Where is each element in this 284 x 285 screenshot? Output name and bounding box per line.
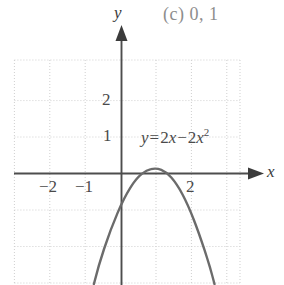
equation-equals: =	[149, 128, 161, 147]
equation-term2-exponent: 2	[204, 126, 210, 138]
equation-operator: −	[176, 128, 188, 147]
parabola-curve	[94, 169, 215, 284]
grid-lines	[14, 60, 240, 284]
x-axis-label: x	[267, 163, 275, 180]
x-axis-arrowhead	[248, 168, 264, 180]
x-tick-label-2: 2	[186, 178, 195, 195]
x-tick-label-minus-1: −1	[75, 178, 93, 195]
y-axis-label: y	[114, 4, 122, 21]
y-tick-label-2: 2	[102, 91, 111, 108]
part-label: (c) 0, 1	[163, 5, 218, 23]
y-tick-label-1: 1	[103, 127, 112, 144]
curve-equation-label: y=2x−2x2	[141, 127, 209, 146]
equation-lhs: y	[141, 128, 149, 147]
y-axis-arrowhead	[116, 25, 128, 41]
x-tick-label-minus-2: −2	[39, 178, 57, 195]
equation-term1-coefficient: 2	[160, 128, 169, 147]
figure-container: (c) 0, 1 y x 2 1 −2 −1 2 y=2x−2x2	[0, 0, 284, 285]
equation-term2-coefficient: 2	[188, 128, 197, 147]
equation-term2-variable: x	[196, 128, 204, 147]
